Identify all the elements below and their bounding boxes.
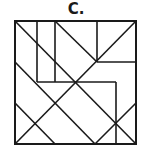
internal-lines bbox=[15, 21, 136, 144]
geometric-figure bbox=[0, 0, 144, 154]
line-segment bbox=[55, 21, 97, 62]
